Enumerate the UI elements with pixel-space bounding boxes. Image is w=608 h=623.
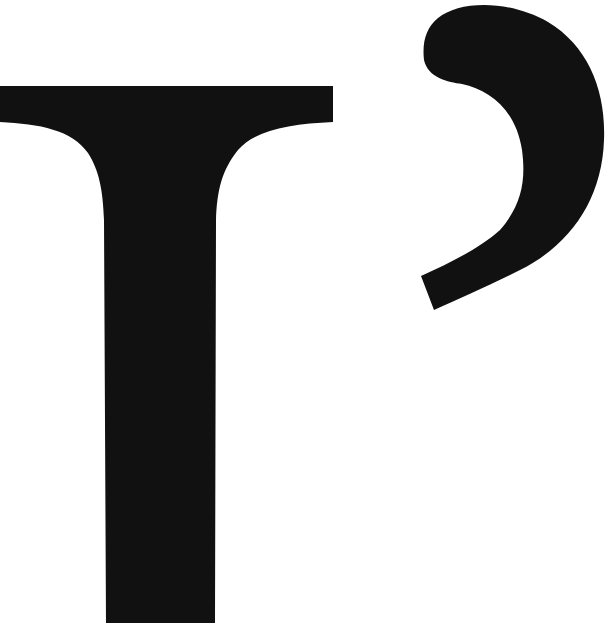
- glyph-canvas: T’: [0, 0, 608, 623]
- glyph-artwork: [0, 0, 608, 623]
